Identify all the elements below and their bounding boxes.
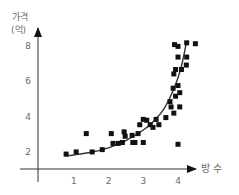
y-tick-label: 8 bbox=[25, 41, 31, 51]
data-point bbox=[109, 131, 114, 136]
data-point bbox=[84, 131, 89, 136]
data-point bbox=[184, 63, 189, 68]
data-point bbox=[179, 67, 184, 72]
data-point bbox=[150, 125, 155, 130]
scatter-chart: 1234 2468 방 수 가격 (억) bbox=[0, 0, 239, 195]
data-point bbox=[137, 122, 142, 127]
data-point bbox=[74, 149, 79, 154]
x-tick-label: 3 bbox=[140, 176, 146, 186]
x-axis-label: 방 수 bbox=[201, 163, 222, 174]
data-point bbox=[171, 71, 176, 76]
data-point bbox=[176, 142, 181, 147]
x-tick-label: 2 bbox=[106, 176, 112, 186]
data-point bbox=[177, 90, 182, 95]
x-tick-label: 1 bbox=[71, 176, 77, 186]
data-point bbox=[111, 141, 116, 146]
y-tick-label: 2 bbox=[25, 147, 31, 157]
data-point bbox=[64, 152, 69, 157]
y-tick-labels: 2468 bbox=[25, 41, 31, 158]
data-point bbox=[100, 147, 105, 152]
data-point bbox=[136, 131, 141, 136]
y-axis-label-line2: (억) bbox=[11, 24, 26, 35]
data-point bbox=[132, 140, 137, 145]
data-point bbox=[173, 67, 178, 72]
data-point bbox=[171, 86, 176, 91]
x-tick-label: 4 bbox=[175, 176, 181, 186]
data-point bbox=[176, 44, 181, 49]
data-point bbox=[168, 99, 173, 104]
x-tick-labels: 1234 bbox=[71, 176, 181, 186]
data-point bbox=[171, 111, 176, 116]
data-point bbox=[141, 140, 146, 145]
data-point bbox=[123, 134, 128, 139]
y-axis-label-line1: 가격 bbox=[12, 11, 28, 22]
data-point bbox=[177, 104, 182, 109]
data-point bbox=[193, 41, 198, 46]
data-point bbox=[120, 140, 125, 145]
data-point bbox=[130, 133, 135, 138]
data-points bbox=[64, 40, 198, 156]
data-point bbox=[122, 129, 127, 134]
data-point bbox=[184, 40, 189, 45]
data-point bbox=[169, 104, 174, 109]
data-point bbox=[144, 118, 149, 123]
data-point bbox=[184, 55, 189, 60]
data-point bbox=[154, 117, 159, 122]
data-point bbox=[163, 115, 168, 120]
data-point bbox=[176, 83, 181, 88]
y-tick-label: 4 bbox=[25, 112, 31, 122]
data-point bbox=[176, 55, 181, 60]
y-tick-label: 6 bbox=[25, 76, 31, 86]
data-point bbox=[90, 149, 95, 154]
data-point bbox=[156, 122, 161, 127]
